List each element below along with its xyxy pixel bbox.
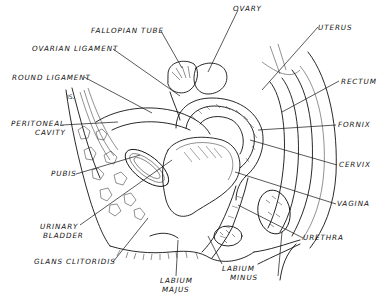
label-pubis: PUBIS: [51, 170, 77, 178]
label-labium-majus-line2: MAJUS: [162, 286, 190, 294]
label-labium-minus-line2: MINUS: [230, 274, 258, 282]
label-fornix: FORNIX: [338, 121, 371, 129]
label-urinary-bladder-line2: BLADDER: [43, 232, 84, 240]
urinary-bladder-outline: [163, 137, 240, 216]
vulva-outline: [110, 246, 254, 261]
label-peritoneal-cavity-line2: CAVITY: [35, 129, 66, 137]
label-ovary: OVARY: [233, 5, 262, 13]
label-ovarian-ligament: OVARIAN LIGAMENT: [32, 45, 118, 53]
uterine-wall-texture: [192, 104, 257, 162]
anal-canal: [254, 188, 293, 237]
label-urinary-bladder-line1: URINARY: [40, 223, 78, 231]
label-cervix: CERVIX: [339, 161, 371, 169]
label-urethra: URETHRA: [303, 234, 344, 242]
label-round-ligament: ROUND LIGAMENT: [12, 74, 91, 82]
label-uterus: UTERUS: [318, 24, 352, 32]
label-peritoneal-cavity-line1: PERITONEAL: [11, 120, 65, 128]
label-glans-clitoridis: GLANS CLITORIDIS: [34, 258, 116, 266]
rectum-outline: [268, 82, 284, 228]
uterus-outline: [176, 98, 263, 200]
label-rectum: RECTUM: [341, 78, 377, 86]
label-labium-minus-line1: LABIUM: [222, 265, 255, 273]
fallopian-tube-outline: [168, 61, 197, 93]
label-is-marker: IS.: [67, 93, 75, 101]
label-labium-majus-line1: LABIUM: [160, 277, 193, 285]
pubic-bone: [119, 143, 175, 194]
vagina-canal: [202, 186, 236, 252]
label-vagina: VAGINA: [337, 200, 370, 208]
label-fallopian-tube: FALLOPIAN TUBE: [91, 27, 164, 35]
anatomy-diagram: OVARY FALLOPIAN TUBE UTERUS OVARIAN LIGA…: [0, 0, 383, 296]
